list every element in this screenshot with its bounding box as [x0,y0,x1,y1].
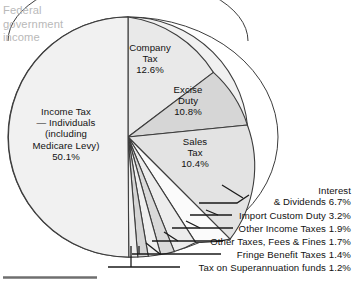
callout-label-tax-superannuation-funds: Tax on Superannuation funds 1.2% [150,262,351,273]
callout-label-fringe-benefit-taxes: Fringe Benefit Taxes 1.4% [196,249,351,260]
slice-label-company-tax: Company Tax 12.6% [114,42,186,76]
page-title: Federal government income [3,4,63,45]
callout-label-other-income-taxes: Other Income Taxes 1.9% [196,223,351,234]
callout-label-other-taxes-fees-fines: Other Taxes, Fees & Fines 1.7% [196,236,351,247]
callout-label-interest-dividends: Interest & Dividends 6.7% [196,185,351,207]
slice-label-excise-duty: Excise Duty 10.8% [157,84,219,118]
slice-label-income-tax: Income Tax — Individuals (including Medi… [12,106,120,162]
callout-label-import-custom-duty: Import Custom Duty 3.2% [196,210,351,221]
federal-government-income-pie-chart: Federal government income Income Tax — I… [0,0,353,286]
slice-label-sales-tax: Sales Tax 10.4% [166,136,224,170]
